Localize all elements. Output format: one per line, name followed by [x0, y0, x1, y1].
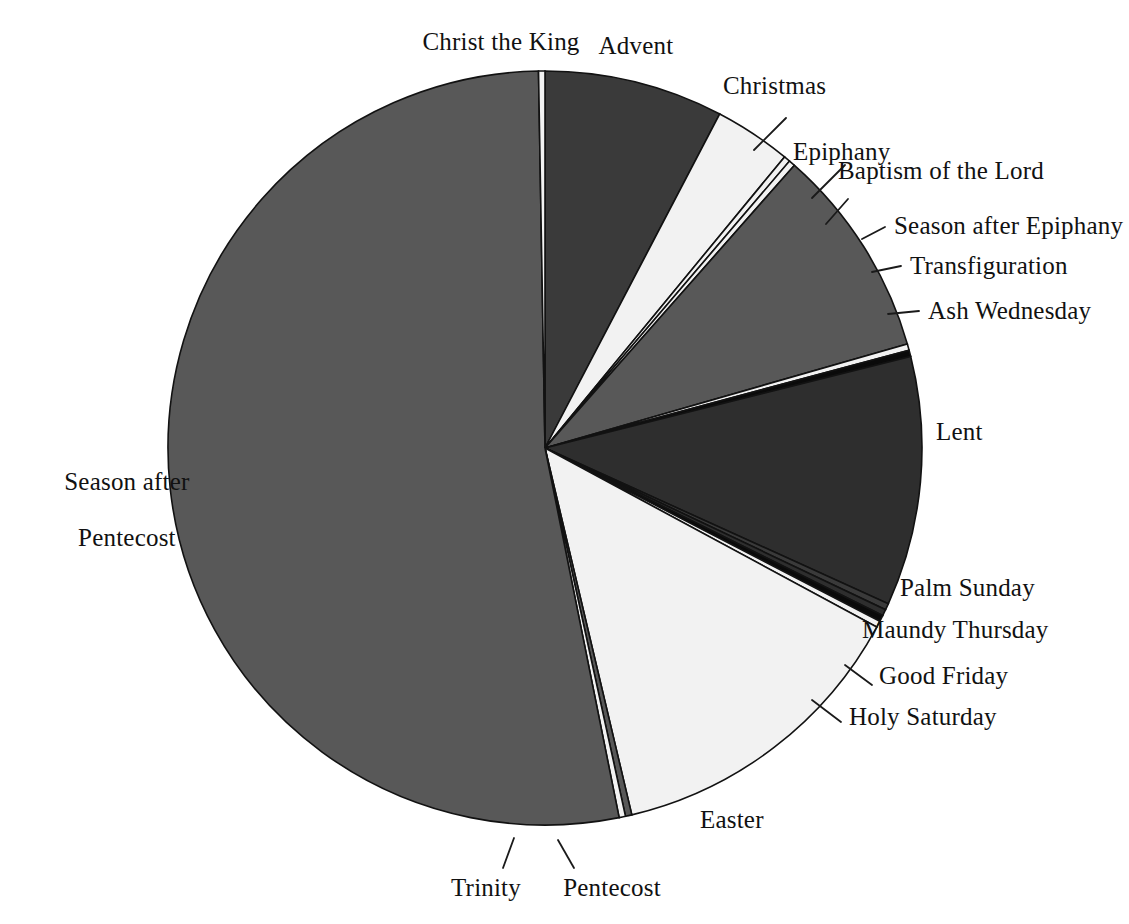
pie-label-baptism-of-the-lord: Baptism of the Lord	[838, 157, 1129, 185]
leader-line-season-after-epiphany	[862, 227, 885, 239]
pie-label-season-after-pentecost: Season after Pentecost	[14, 440, 214, 580]
leader-line-good-friday	[845, 665, 872, 685]
leader-line-trinity	[503, 838, 514, 868]
pie-label-transfiguration: Transfiguration	[910, 252, 1129, 280]
leader-line-holy-saturday	[812, 700, 841, 722]
pie-label-lent: Lent	[936, 418, 1086, 446]
leader-line-pentecost	[558, 840, 574, 868]
pie-label-season-after-epiphany: Season after Epiphany	[894, 212, 1129, 240]
pie-chart: Christ the King Advent Christmas Epiphan…	[0, 0, 1129, 924]
pie-slices-group	[168, 71, 922, 825]
pie-label-trinity: Trinity	[413, 874, 559, 902]
season-after-pentecost-line-1: Season after	[64, 468, 189, 495]
pie-label-palm-sunday: Palm Sunday	[900, 574, 1129, 602]
pie-label-holy-saturday: Holy Saturday	[849, 703, 1109, 731]
pie-label-advent: Advent	[566, 32, 706, 60]
season-after-pentecost-line-2: Pentecost	[78, 524, 176, 551]
pie-label-christmas: Christmas	[723, 72, 923, 100]
pie-label-good-friday: Good Friday	[879, 662, 1129, 690]
pie-label-maundy-thursday: Maundy Thursday	[862, 616, 1129, 644]
pie-label-easter: Easter	[700, 806, 880, 834]
pie-label-ash-wednesday: Ash Wednesday	[928, 297, 1129, 325]
